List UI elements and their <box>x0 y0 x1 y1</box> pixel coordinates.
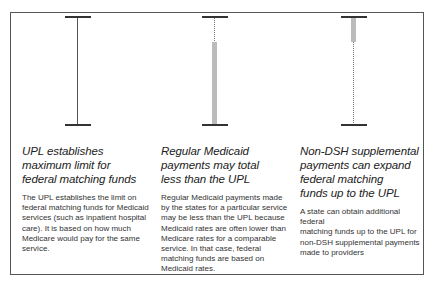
body-line: services (such as inpatient hospital <box>22 213 157 223</box>
body-line: made to providers <box>300 248 425 258</box>
lower-cap <box>341 124 367 126</box>
heading-line: federal matching funds <box>22 172 147 186</box>
upper-cap <box>202 16 228 18</box>
heading-line: UPL establishes <box>22 144 147 158</box>
heading-line: payments can expand <box>300 158 425 172</box>
body-line: may be less than the UPL because <box>161 213 296 223</box>
body-line: service. In that case, federal <box>161 244 296 254</box>
heading-regular-medicaid: Regular Medicaid payments may total less… <box>161 144 286 186</box>
body-non-dsh: A state can obtain additional federal ma… <box>300 207 425 258</box>
body-line: care). It is based on how much <box>22 224 157 234</box>
upper-cap <box>65 16 91 18</box>
regular-medicaid-bar <box>195 16 235 128</box>
body-line: Medicare would pay for the same <box>22 234 157 244</box>
heading-line: payments may total <box>161 158 286 172</box>
body-line: matching funds up to the UPL for <box>300 227 425 237</box>
body-line: A state can obtain additional federal <box>300 207 425 227</box>
heading-line: maximum limit for <box>22 158 147 172</box>
heading-line: funds up to the UPL <box>300 186 425 200</box>
body-upl-limit: The UPL establishes the limit on federal… <box>22 193 157 254</box>
lower-cap <box>65 124 91 126</box>
body-line: matching funds are based on <box>161 254 296 264</box>
body-line: service. <box>22 244 157 254</box>
body-line: non-DSH supplemental payments <box>300 238 425 248</box>
solid-stem <box>77 18 78 124</box>
body-regular-medicaid: Regular Medicaid payments made by the st… <box>161 193 296 275</box>
body-line: Medicaid rates are often lower than <box>161 224 296 234</box>
non-dsh-bar <box>334 16 374 128</box>
heading-upl-limit: UPL establishes maximum limit for federa… <box>22 144 147 186</box>
diagram-frame: UPL establishes maximum limit for federa… <box>10 12 424 275</box>
grey-payment-bar <box>212 42 217 124</box>
body-line: by the states for a particular service <box>161 203 296 213</box>
body-line: The UPL establishes the limit on <box>22 193 157 203</box>
dotted-stem <box>214 18 215 42</box>
heading-line: federal matching <box>300 172 425 186</box>
body-line: Medicare rates for a comparable <box>161 234 296 244</box>
heading-line: less than the UPL <box>161 172 286 186</box>
body-line: Medicaid rates. <box>161 264 296 274</box>
heading-line: Regular Medicaid <box>161 144 286 158</box>
grey-supplemental-bar <box>351 18 356 42</box>
lower-cap <box>202 124 228 126</box>
heading-line: Non-DSH supplemental <box>300 144 425 158</box>
dotted-stem <box>353 42 354 124</box>
body-line: Regular Medicaid payments made <box>161 193 296 203</box>
upl-limit-bar <box>58 16 98 128</box>
heading-non-dsh: Non-DSH supplemental payments can expand… <box>300 144 425 200</box>
body-line: federal matching funds for Medicaid <box>22 203 157 213</box>
